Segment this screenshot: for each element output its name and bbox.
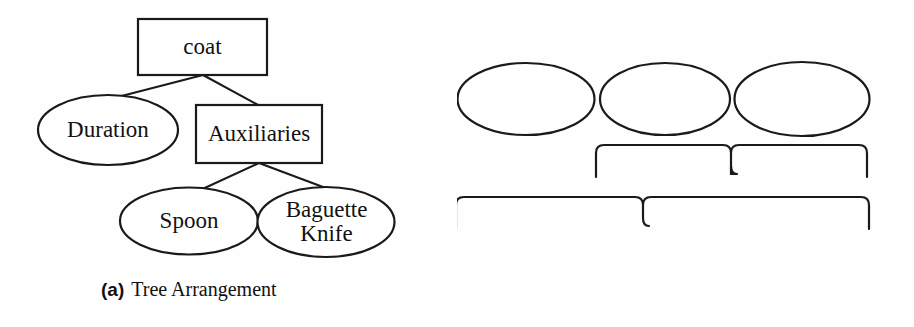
node-baguette-knife-ellipse <box>258 187 395 257</box>
node-duration-ellipse <box>38 95 178 165</box>
figure-root: coat Duration Auxiliaries Spoon Baguette… <box>0 0 914 327</box>
seq-node-baguette-knife-ellipse <box>735 62 870 136</box>
edge-coat-to-auxiliaries <box>203 75 258 105</box>
panel-tree-arrangement: coat Duration Auxiliaries Spoon Baguette… <box>0 0 457 327</box>
seq-node-duration-ellipse <box>458 63 595 135</box>
node-coat-box <box>138 19 267 75</box>
caption-text-a: Tree Arrangement <box>131 278 276 300</box>
brace-coat <box>457 197 869 229</box>
caption-tag-a: (a) <box>101 279 124 300</box>
panel-sequence-arrangement: Duration Spoon Baguette Knife Auxiliarie… <box>457 0 914 327</box>
node-auxiliaries-box <box>196 105 322 163</box>
seq-node-spoon-ellipse <box>600 63 730 135</box>
edge-auxiliaries-to-baguette-knife <box>259 163 331 190</box>
sequence-arrangement-canvas <box>457 0 914 327</box>
node-spoon-ellipse <box>120 188 258 255</box>
caption-tree-arrangement: (a)Tree Arrangement <box>101 278 277 301</box>
